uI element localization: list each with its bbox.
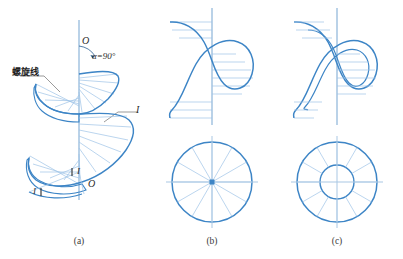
caption-a: (a) (59, 236, 99, 246)
panel-a-lower-treads (30, 116, 131, 184)
helix-label: 螺旋线 (12, 65, 40, 78)
panel-a-upper-treads (36, 74, 119, 112)
center-lower-label: O (88, 178, 95, 189)
panel-b-plan-center-point (210, 180, 215, 185)
axis-top-label: O (82, 35, 89, 46)
panel-b (166, 8, 258, 228)
panel-c (291, 8, 383, 228)
tread-right-label: I (136, 104, 139, 115)
mark-inner-label: I (77, 166, 80, 176)
mark-outer-label: I (33, 186, 36, 196)
helix-leader-line (20, 76, 60, 92)
angle-label: α=90° (92, 51, 115, 61)
panel-a-upper-helix (35, 72, 118, 114)
panel-c-elevation-treads (294, 22, 376, 118)
panel-a-upper-riser (34, 84, 79, 122)
caption-c: (c) (317, 236, 357, 246)
caption-b: (b) (192, 236, 232, 246)
spiral-staircase-diagram (0, 0, 403, 259)
figure-canvas: 螺旋线 O α=90° I I I O (a) (b) (c) (0, 0, 403, 259)
